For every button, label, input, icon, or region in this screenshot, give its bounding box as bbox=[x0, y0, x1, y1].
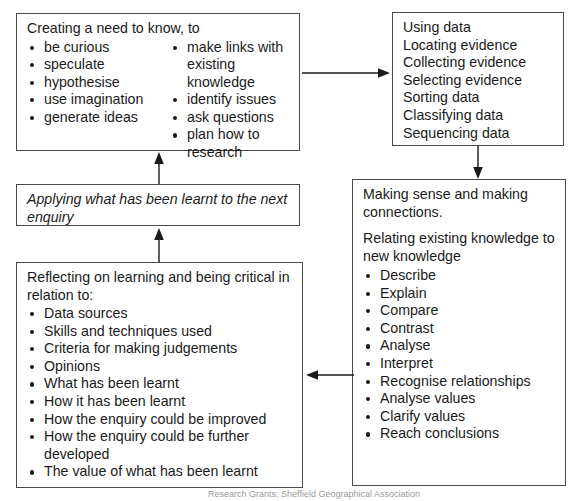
list-item: Classifying data bbox=[403, 107, 555, 125]
list-item: speculate bbox=[27, 56, 170, 74]
arrow-down-icon-using-to-making bbox=[471, 146, 485, 180]
list-item: How the enquiry could be further develop… bbox=[27, 428, 294, 463]
diagram-canvas: Creating a need to know, to be curious s… bbox=[0, 0, 579, 501]
list-item: Analyse values bbox=[363, 390, 557, 408]
arrow-right-icon-creating-to-using bbox=[302, 66, 394, 80]
list-item: Locating evidence bbox=[403, 37, 555, 55]
making-bullets: Describe Explain Compare Contrast Analys… bbox=[363, 267, 557, 443]
list-item: Using data bbox=[403, 19, 555, 37]
list-item: identify issues bbox=[170, 91, 291, 109]
list-item: Clarify values bbox=[363, 408, 557, 426]
list-item: Reach conclusions bbox=[363, 425, 557, 443]
box-reflecting-on-learning: Reflecting on learning and being critica… bbox=[16, 262, 303, 488]
box-making-subheading: Relating existing knowledge to new knowl… bbox=[363, 230, 557, 265]
list-item: What has been learnt bbox=[27, 375, 294, 393]
list-item: hypothesise bbox=[27, 74, 170, 92]
reflecting-bullets: Data sources Skills and techniques used … bbox=[27, 305, 294, 481]
source-caption: Research Grants, Sheffield Geographical … bbox=[208, 489, 420, 500]
box-creating-a-need-to-know: Creating a need to know, to be curious s… bbox=[16, 13, 300, 151]
box-reflecting-heading: Reflecting on learning and being critica… bbox=[27, 269, 294, 304]
list-item: Explain bbox=[363, 285, 557, 303]
creating-bullets-right: make links with existing knowledge ident… bbox=[170, 39, 291, 162]
box-making-heading: Making sense and making connections. bbox=[363, 186, 557, 221]
box-using-data: Using data Locating evidence Collecting … bbox=[392, 12, 564, 146]
list-item: Data sources bbox=[27, 305, 294, 323]
list-item: The value of what has been learnt bbox=[27, 463, 294, 481]
list-item: plan how to research bbox=[170, 126, 291, 161]
list-item: be curious bbox=[27, 39, 170, 57]
box-making-sense-and-connections: Making sense and making connections. Rel… bbox=[352, 179, 566, 486]
arrow-up-icon-reflecting-to-applying bbox=[152, 228, 166, 262]
arrow-up-icon-applying-to-creating bbox=[152, 152, 166, 184]
box-applying-heading: Applying what has been learnt to the nex… bbox=[27, 191, 291, 226]
list-item: Contrast bbox=[363, 320, 557, 338]
list-item: ask questions bbox=[170, 109, 291, 127]
list-item: use imagination bbox=[27, 91, 170, 109]
list-item: Opinions bbox=[27, 358, 294, 376]
box-applying-what-has-been-learnt: Applying what has been learnt to the nex… bbox=[16, 184, 300, 226]
box-creating-heading: Creating a need to know, to bbox=[27, 20, 291, 38]
arrow-left-icon-making-to-reflecting bbox=[306, 368, 354, 382]
list-item: Compare bbox=[363, 302, 557, 320]
list-item: Criteria for making judgements bbox=[27, 340, 294, 358]
list-item: How it has been learnt bbox=[27, 393, 294, 411]
list-item: Selecting evidence bbox=[403, 72, 555, 90]
list-item: How the enquiry could be improved bbox=[27, 411, 294, 429]
list-item: Interpret bbox=[363, 355, 557, 373]
list-item: Collecting evidence bbox=[403, 54, 555, 72]
list-item: generate ideas bbox=[27, 109, 170, 127]
list-item: Sequencing data bbox=[403, 125, 555, 143]
list-item: Sorting data bbox=[403, 89, 555, 107]
list-item: Recognise relationships bbox=[363, 373, 557, 391]
list-item: Analyse bbox=[363, 337, 557, 355]
list-item: Describe bbox=[363, 267, 557, 285]
using-data-lines: Using data Locating evidence Collecting … bbox=[403, 19, 555, 142]
creating-bullets-left: be curious speculate hypothesise use ima… bbox=[27, 39, 170, 162]
list-item: Skills and techniques used bbox=[27, 323, 294, 341]
creating-bullet-columns: be curious speculate hypothesise use ima… bbox=[27, 39, 291, 162]
list-item: make links with existing knowledge bbox=[170, 39, 291, 92]
